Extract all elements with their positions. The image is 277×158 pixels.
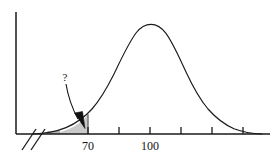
question-mark-label: ?: [63, 71, 68, 83]
distribution-plot-svg: 70 100 ?: [0, 0, 277, 158]
x-tick-label-70: 70: [82, 139, 94, 153]
x-tick-label-100: 100: [141, 139, 159, 153]
normal-distribution-figure: 70 100 ?: [0, 0, 277, 158]
